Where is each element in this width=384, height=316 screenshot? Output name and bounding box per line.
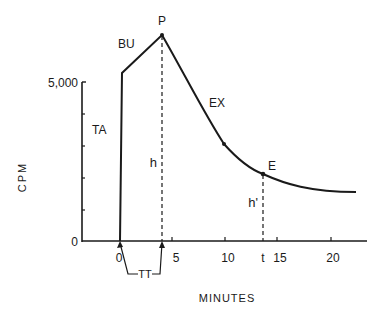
chart: CPM 5,000 0 0 5 10 t 15 20 TT MINUTES TA… — [0, 0, 384, 316]
x-tick-15: 15 — [273, 251, 287, 265]
tt-bracket-left — [120, 243, 138, 274]
ex-label: EX — [209, 96, 225, 110]
peak-point — [160, 33, 164, 37]
x-tick-10: 10 — [221, 251, 235, 265]
p-label: P — [158, 14, 166, 28]
y-tick-5000: 5,000 — [48, 76, 78, 90]
t-marker: t — [261, 251, 265, 265]
tt-label: TT — [138, 268, 152, 280]
h-label: h — [150, 155, 157, 170]
end-point — [261, 172, 266, 177]
bu-label: BU — [118, 37, 135, 51]
arrow-icon — [117, 241, 123, 248]
h-prime-label: h' — [248, 195, 258, 210]
x-axis-label: MINUTES — [199, 292, 256, 304]
e-label: E — [268, 159, 276, 173]
mid-point — [222, 142, 226, 146]
ta-label: TA — [92, 123, 106, 137]
arrow-icon — [159, 241, 165, 248]
count-curve — [120, 35, 356, 241]
x-tick-20: 20 — [326, 251, 340, 265]
x-tick-0: 0 — [116, 251, 123, 265]
y-tick-0: 0 — [71, 235, 78, 249]
x-tick-5: 5 — [173, 251, 180, 265]
y-axis-label: CPM — [16, 162, 28, 192]
